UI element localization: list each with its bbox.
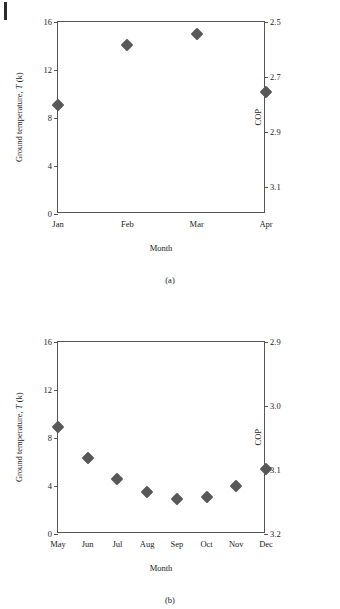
plot-area-b: 0481216 3.23.13.02.9 MayJunJulAugSepOctN… [57,341,265,533]
data-point [141,486,154,499]
data-point [190,28,203,41]
y-axis-title-b: Ground temperature, T (k) [15,392,24,482]
y-tick-label: 16 [44,338,53,347]
data-point [121,38,134,51]
secondary-y-tick-mark [264,132,268,133]
y-tick-mark [54,486,58,487]
secondary-y-tick-mark [264,22,268,23]
secondary-y-tick-label: 3.1 [270,182,281,191]
y-tick-label: 8 [48,434,52,443]
secondary-y-tick-label: 2.9 [270,127,281,136]
y-tick-mark [54,22,58,23]
y-tick-label: 16 [44,18,53,27]
y-tick-label: 4 [48,482,52,491]
y-tick-label: 12 [44,66,53,75]
x-tick-label: Feb [121,220,134,229]
figure-b: 0481216 3.23.13.02.9 MayJunJulAugSepOctN… [0,300,340,609]
secondary-y-tick-label: 2.5 [270,18,281,27]
secondary-y-tick-mark [264,342,268,343]
data-point [52,421,65,434]
y-tick-label: 4 [48,162,52,171]
data-point [200,490,213,503]
data-point [170,493,183,506]
data-point [52,98,65,111]
figure-caption-a: (a) [165,276,174,285]
x-tick-label: Apr [259,220,272,229]
secondary-y-tick-label: 3.1 [270,466,281,475]
data-point [230,480,243,493]
secondary-y-axis-title-b: COP [254,429,263,446]
secondary-y-axis-title-a: COP [254,109,263,126]
x-tick-label: Sep [170,540,183,549]
x-axis-title-b: Month [150,564,173,573]
y-tick-mark [54,214,58,215]
data-point [81,452,94,465]
secondary-y-tick-mark [264,406,268,407]
x-tick-label: May [50,540,66,549]
y-tick-mark [54,390,58,391]
x-tick-label: Nov [229,540,244,549]
y-tick-label: 0 [48,210,52,219]
y-tick-label: 12 [44,386,53,395]
figure-caption-b: (b) [165,596,175,605]
y-tick-mark [54,118,58,119]
x-tick-label: Dec [259,540,273,549]
x-axis-title-a: Month [150,244,173,253]
y-tick-mark [54,70,58,71]
y-axis-title-symbol: T [14,84,24,89]
data-point [111,472,124,485]
y-tick-mark [54,342,58,343]
figure-a: 0481216 2.52.72.93.1 JanFebMarApr Ground… [0,0,340,300]
plot-area-a: 0481216 2.52.72.93.1 JanFebMarApr [57,21,265,213]
secondary-y-tick-mark [264,77,268,78]
data-point [260,85,273,98]
y-tick-mark [54,166,58,167]
x-tick-label: Oct [200,540,212,549]
secondary-y-tick-label: 3.0 [270,402,281,411]
secondary-y-tick-label: 2.9 [270,338,281,347]
secondary-y-tick-label: 2.7 [270,73,281,82]
x-tick-label: Jun [82,540,94,549]
secondary-y-tick-label: 3.2 [270,530,281,539]
x-tick-label: Jul [112,540,122,549]
y-tick-mark [54,438,58,439]
x-tick-label: Aug [140,540,155,549]
y-axis-title-a: Ground temperature, T (k) [15,72,24,162]
x-tick-label: Jan [52,220,63,229]
y-tick-mark [54,534,58,535]
y-axis-title-symbol: T [14,404,24,409]
secondary-y-tick-mark [264,187,268,188]
secondary-y-tick-mark [264,470,268,471]
y-tick-label: 0 [48,530,52,539]
secondary-y-tick-mark [264,534,268,535]
y-tick-label: 8 [48,114,52,123]
x-tick-label: Mar [190,220,204,229]
